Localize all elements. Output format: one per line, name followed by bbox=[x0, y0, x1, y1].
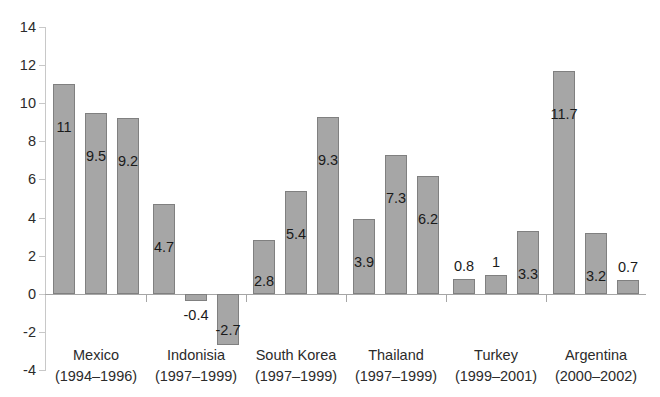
y-axis-tick bbox=[39, 218, 46, 219]
bar-data-label: 3.9 bbox=[354, 255, 374, 270]
y-axis-tick bbox=[39, 65, 46, 66]
category-label: Thailand(1997–1999) bbox=[355, 345, 437, 387]
y-axis-tick bbox=[39, 332, 46, 333]
bar-data-label: 4.7 bbox=[154, 240, 174, 255]
bar-data-label: 6.2 bbox=[418, 212, 438, 227]
plot-area: 119.59.24.7-0.4-2.72.85.49.33.97.36.20.8… bbox=[46, 27, 646, 370]
bar bbox=[385, 155, 407, 294]
y-axis-tick-label: 12 bbox=[2, 58, 36, 73]
y-axis-tick-label: 2 bbox=[2, 248, 36, 263]
category-label: Argentina(2000–2002) bbox=[555, 345, 637, 387]
bar bbox=[617, 280, 639, 293]
category-name: Turkey bbox=[455, 345, 537, 366]
y-axis-tick-label: -2 bbox=[2, 325, 36, 340]
category-name: Thailand bbox=[355, 345, 437, 366]
category-years: (1999–2001) bbox=[455, 366, 537, 387]
bar bbox=[53, 84, 75, 294]
bar-data-label: 3.2 bbox=[586, 269, 606, 284]
y-axis-tick-label: 10 bbox=[2, 96, 36, 111]
category-name: Indonisia bbox=[155, 345, 237, 366]
bar bbox=[585, 233, 607, 294]
y-axis-tick bbox=[39, 103, 46, 104]
y-axis-tick bbox=[39, 179, 46, 180]
bar-data-label: 11 bbox=[56, 120, 71, 135]
category-label: Turkey(1999–2001) bbox=[455, 345, 537, 387]
y-axis-tick bbox=[39, 370, 46, 371]
bar-data-label: 0.8 bbox=[454, 259, 474, 274]
bar bbox=[553, 71, 575, 294]
y-axis-tick-label: 6 bbox=[2, 172, 36, 187]
bar-data-label: 9.3 bbox=[318, 153, 338, 168]
bar-data-label: 2.8 bbox=[254, 274, 274, 289]
bar bbox=[317, 117, 339, 294]
bar bbox=[185, 294, 207, 302]
category-name: South Korea bbox=[255, 345, 337, 366]
bar-data-label: 9.5 bbox=[86, 149, 106, 164]
y-axis-tick bbox=[39, 27, 46, 28]
bar-data-label: 11.7 bbox=[550, 107, 577, 122]
y-axis-tick-label: -4 bbox=[2, 363, 36, 378]
category-years: (2000–2002) bbox=[555, 366, 637, 387]
y-axis-tick-label: 0 bbox=[2, 287, 36, 302]
y-axis-tick-label: 14 bbox=[2, 20, 36, 35]
bar-data-label: 0.7 bbox=[618, 260, 638, 275]
y-axis-tick-label: 4 bbox=[2, 210, 36, 225]
y-axis-tick-label: 8 bbox=[2, 134, 36, 149]
y-axis-tick bbox=[39, 141, 46, 142]
category-years: (1997–1999) bbox=[155, 366, 237, 387]
category-years: (1997–1999) bbox=[255, 366, 337, 387]
category-label: Indonisia(1997–1999) bbox=[155, 345, 237, 387]
category-label: South Korea(1997–1999) bbox=[255, 345, 337, 387]
category-years: (1997–1999) bbox=[355, 366, 437, 387]
bar-data-label: 5.4 bbox=[286, 227, 306, 242]
bar bbox=[453, 279, 475, 294]
category-label: Mexico(1994–1996) bbox=[55, 345, 137, 387]
category-name: Mexico bbox=[55, 345, 137, 366]
category-years: (1994–1996) bbox=[55, 366, 137, 387]
bar-data-label: 7.3 bbox=[386, 191, 406, 206]
bar-data-label: 3.3 bbox=[518, 267, 538, 282]
bar bbox=[285, 191, 307, 294]
category-name: Argentina bbox=[555, 345, 637, 366]
bar bbox=[485, 275, 507, 294]
bar bbox=[85, 113, 107, 294]
bar bbox=[517, 231, 539, 294]
bar-chart: 14121086420-2-4 119.59.24.7-0.4-2.72.85.… bbox=[0, 0, 660, 397]
bar-data-label: 1 bbox=[492, 255, 500, 270]
bar-data-label: -2.7 bbox=[216, 323, 241, 338]
bar-data-label: -0.4 bbox=[184, 308, 209, 323]
y-axis-tick bbox=[39, 256, 46, 257]
bar bbox=[117, 118, 139, 293]
bar bbox=[417, 176, 439, 294]
bar-data-label: 9.2 bbox=[118, 154, 138, 169]
